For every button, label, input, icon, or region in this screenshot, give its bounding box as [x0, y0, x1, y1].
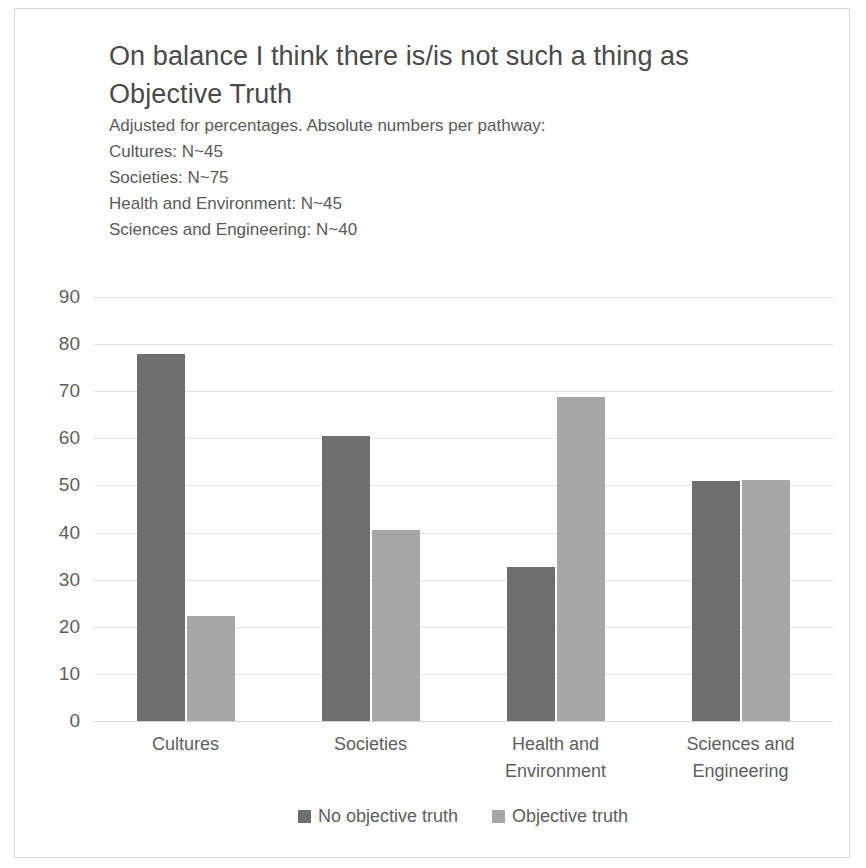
legend-item[interactable]: No objective truth — [298, 807, 458, 825]
bar-group — [93, 297, 278, 721]
bar-group — [278, 297, 463, 721]
chart-subtitle-line-5: Sciences and Engineering: N~40 — [109, 217, 809, 243]
x-axis-labels: CulturesSocietiesHealth andEnvironmentSc… — [93, 731, 833, 785]
x-axis-label: Cultures — [93, 731, 278, 785]
bar[interactable] — [137, 354, 185, 721]
y-axis-tick-60: 60 — [20, 428, 80, 447]
y-axis-tick-70: 70 — [20, 381, 80, 400]
plot-area: 9080706050403020100 — [93, 297, 833, 721]
y-axis-tick-10: 10 — [20, 664, 80, 683]
legend-swatch-icon — [298, 810, 311, 823]
y-axis-tick-30: 30 — [20, 570, 80, 589]
bar[interactable] — [557, 397, 605, 721]
x-axis-label-line: Sciences and — [648, 731, 833, 758]
x-axis-label-line: Cultures — [93, 731, 278, 758]
x-axis-label: Sciences andEngineering — [648, 731, 833, 785]
y-axis-tick-50: 50 — [20, 475, 80, 494]
bar[interactable] — [372, 530, 420, 721]
chart-subtitle-line-4: Health and Environment: N~45 — [109, 191, 809, 217]
legend-label: No objective truth — [318, 807, 458, 825]
legend-label: Objective truth — [512, 807, 628, 825]
x-axis-label-line: Engineering — [648, 758, 833, 785]
y-axis-tick-20: 20 — [20, 617, 80, 636]
chart-subtitle-line-3: Societies: N~75 — [109, 165, 809, 191]
y-axis-tick-40: 40 — [20, 523, 80, 542]
x-axis-label-line: Societies — [278, 731, 463, 758]
chart-subtitle-line-2: Cultures: N~45 — [109, 139, 809, 165]
bar[interactable] — [742, 480, 790, 721]
x-axis-label-line: Health and — [463, 731, 648, 758]
y-axis-tick-0: 0 — [20, 711, 80, 730]
x-axis-label: Societies — [278, 731, 463, 785]
chart-title-line-2: Objective Truth — [109, 75, 809, 113]
legend-item[interactable]: Objective truth — [492, 807, 628, 825]
chart-container: On balance I think there is/is not such … — [14, 8, 850, 858]
bar[interactable] — [187, 616, 235, 721]
bar-group — [648, 297, 833, 721]
x-axis-label: Health andEnvironment — [463, 731, 648, 785]
bar[interactable] — [322, 436, 370, 721]
title-block: On balance I think there is/is not such … — [109, 37, 809, 243]
legend-swatch-icon — [492, 810, 505, 823]
chart-subtitle-line-1: Adjusted for percentages. Absolute numbe… — [109, 113, 809, 139]
bar[interactable] — [507, 567, 555, 721]
x-axis-label-line: Environment — [463, 758, 648, 785]
chart-legend: No objective truthObjective truth — [93, 807, 833, 825]
bar[interactable] — [692, 481, 740, 721]
gridline-0: 0 — [93, 721, 833, 722]
bar-group — [463, 297, 648, 721]
bars-layer — [93, 297, 833, 721]
y-axis-tick-90: 90 — [20, 287, 80, 306]
y-axis-tick-80: 80 — [20, 334, 80, 353]
chart-title-line-1: On balance I think there is/is not such … — [109, 37, 809, 75]
